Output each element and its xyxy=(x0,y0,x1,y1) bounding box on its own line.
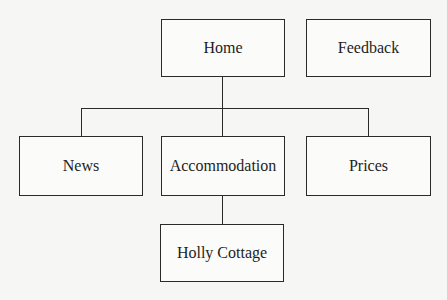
node-label: News xyxy=(63,157,99,175)
connector-to-news xyxy=(81,108,82,137)
node-label: Feedback xyxy=(338,39,399,57)
node-label: Prices xyxy=(349,157,388,175)
connector-home-down xyxy=(222,77,223,108)
site-map-diagram: Home Feedback News Accommodation Prices … xyxy=(0,0,447,300)
node-label: Holly Cottage xyxy=(177,244,267,262)
node-feedback: Feedback xyxy=(306,19,431,77)
node-accommodation: Accommodation xyxy=(161,136,285,196)
node-home: Home xyxy=(161,19,285,77)
connector-to-prices xyxy=(368,108,369,137)
node-news: News xyxy=(19,136,143,196)
node-label: Accommodation xyxy=(170,157,277,175)
connector-to-accommodation xyxy=(222,108,223,137)
connector-horizontal-bus xyxy=(81,108,369,109)
node-holly-cottage: Holly Cottage xyxy=(160,224,284,282)
node-label: Home xyxy=(203,39,242,57)
node-prices: Prices xyxy=(306,136,431,196)
connector-accommodation-to-holly-cottage xyxy=(222,196,223,224)
